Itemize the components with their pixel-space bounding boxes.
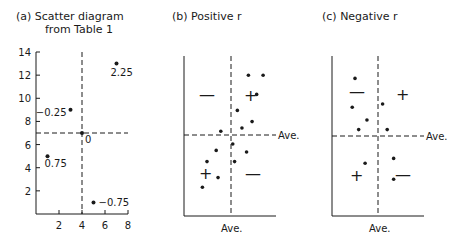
panel-b-title: (b) Positive r <box>172 10 242 23</box>
panel-c-point <box>392 157 396 161</box>
panel-c-title: (c) Negative r <box>322 10 398 23</box>
panel-a-x-tick-label: 2 <box>56 220 62 231</box>
panel-b: (b) Positive r Ave. Ave. — + + — <box>172 10 300 234</box>
panel-c-sign-bottom-right: — <box>395 165 411 184</box>
panel-a-point-label: 2.25 <box>111 67 133 78</box>
panel-a-point <box>92 200 96 204</box>
panel-a-y-tick-label: 14 <box>18 47 31 58</box>
panel-a-x-tick-label: 6 <box>102 220 108 231</box>
panel-c-point <box>357 128 361 132</box>
panel-b-point <box>233 160 237 164</box>
panel-a-title-line2: from Table 1 <box>45 23 113 36</box>
panel-a-point <box>80 131 84 135</box>
panel-a-point-label: 0 <box>85 134 91 145</box>
panel-b-point <box>216 176 220 180</box>
panel-a-y-tick-label: 2 <box>25 186 31 197</box>
panel-b-point <box>219 129 223 133</box>
panel-b-sign-bottom-left: + <box>199 164 212 183</box>
panel-c-point <box>350 105 354 109</box>
panel-a-y-tick-label: 8 <box>25 116 31 127</box>
panel-c-point <box>365 118 369 122</box>
panel-b-ave-x-label: Ave. <box>221 223 243 234</box>
panel-a-x-tick-label: 8 <box>125 220 131 231</box>
panel-b-point <box>231 142 235 146</box>
panel-c-point <box>381 102 385 106</box>
panel-c-sign-bottom-left: + <box>350 166 363 185</box>
panel-c: (c) Negative r Ave. Ave. — + + — <box>322 10 448 234</box>
panel-c-point <box>385 128 389 132</box>
panel-b-point <box>247 73 251 77</box>
panel-b-sign-top-left: — <box>199 85 215 104</box>
panel-a-x-tick-label: 4 <box>79 220 85 231</box>
panel-b-point <box>240 126 244 130</box>
panel-b-ave-y-label: Ave. <box>278 130 300 141</box>
panel-b-point <box>205 160 209 164</box>
panel-b-point <box>250 120 254 124</box>
panel-a: (a) Scatter diagram from Table 1 2468246… <box>16 10 133 231</box>
panel-a-y-tick-label: 12 <box>18 70 31 81</box>
panel-c-ave-x-label: Ave. <box>369 223 391 234</box>
panel-b-sign-bottom-right: — <box>245 164 261 183</box>
panel-c-point <box>363 161 367 165</box>
figure: (a) Scatter diagram from Table 1 2468246… <box>0 0 458 241</box>
panel-b-point <box>214 149 218 153</box>
panel-a-y-tick-label: 10 <box>18 93 31 104</box>
panel-c-point <box>353 77 357 81</box>
panel-c-sign-top-left: — <box>349 82 365 101</box>
panel-a-point-label: −0.25 <box>36 107 67 118</box>
panel-b-point <box>236 109 240 113</box>
panel-a-point-label: 0.75 <box>45 158 67 169</box>
panel-a-point <box>69 108 73 112</box>
panel-b-point <box>245 150 249 154</box>
panel-a-point-label: −0.75 <box>99 197 130 208</box>
panel-c-point <box>392 177 396 181</box>
panel-c-sign-top-right: + <box>396 85 409 104</box>
panel-a-point <box>115 62 119 66</box>
panel-b-point <box>201 185 205 189</box>
panel-a-y-tick-label: 4 <box>25 163 31 174</box>
panel-b-point <box>261 73 265 77</box>
panel-b-point <box>255 93 259 97</box>
panel-a-title-line1: (a) Scatter diagram <box>16 10 124 23</box>
panel-a-y-tick-label: 6 <box>25 140 31 151</box>
panel-c-ave-y-label: Ave. <box>426 131 448 142</box>
